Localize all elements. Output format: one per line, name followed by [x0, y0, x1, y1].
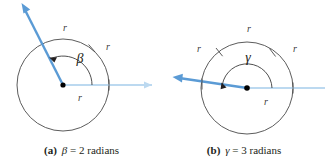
terminal-ray-arrowhead-b [173, 74, 183, 83]
terminal-ray-a [22, 3, 64, 85]
caption-symbol-b: γ [223, 144, 229, 156]
radius-label-b-right: r [293, 43, 297, 54]
terminal-ray-b [173, 74, 248, 88]
panel-a: r r r β (a) β = 2 radians [0, 0, 163, 167]
terminal-ray-arrowhead-a [22, 3, 31, 14]
radius-label-b-top: r [247, 23, 251, 34]
initial-ray-a [63, 82, 152, 89]
radius-label-a-bottom: r [78, 92, 82, 103]
caption-text-a: = 2 radians [70, 144, 119, 156]
vertex-dot-b [244, 85, 250, 91]
caption-a: (a) β = 2 radians [0, 143, 163, 157]
radius-tick-a-2 [89, 45, 96, 53]
diagram-b: r r r r γ [163, 0, 325, 143]
vertex-dot-a [60, 82, 65, 87]
caption-tag-b: (b) [207, 144, 221, 156]
caption-text-b: = 3 radians [232, 144, 281, 156]
caption-symbol-a: β [60, 144, 67, 156]
panel-b: r r r r γ (b) γ = 3 radians [163, 0, 325, 167]
radius-label-a-right: r [106, 41, 110, 52]
radius-label-b-bottom: r [264, 96, 268, 107]
angle-label-b: γ [245, 50, 251, 65]
diagram-a: r r r β [0, 0, 163, 143]
caption-b: (b) γ = 3 radians [163, 143, 325, 157]
radius-label-a-top: r [63, 22, 67, 33]
figure-root: r r r β (a) β = 2 radians [0, 0, 325, 167]
initial-ray-arrowhead-a [144, 82, 152, 89]
terminal-ray-line-b [179, 78, 247, 88]
terminal-ray-line-a [24, 8, 63, 85]
caption-tag-a: (a) [44, 144, 57, 156]
angle-arc-a [51, 56, 92, 85]
radius-label-b-left: r [197, 43, 201, 54]
angle-label-a: β [76, 51, 84, 66]
